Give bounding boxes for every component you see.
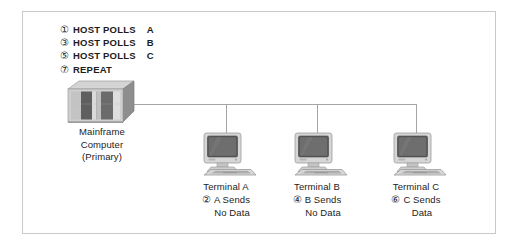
poll-sequence-target: B xyxy=(136,36,154,49)
mainframe-label: Mainframe Computer (Primary) xyxy=(56,126,148,164)
poll-sequence-action: REPEAT xyxy=(73,63,112,76)
mainframe-label-line1: Mainframe xyxy=(56,126,148,139)
poll-sequence-action: HOST POLLS xyxy=(73,36,136,49)
circled-number-7-icon: ⑦ xyxy=(60,63,73,76)
desktop-terminal-icon xyxy=(178,131,274,177)
terminal-c-caption: Terminal C ⑥ C Sends Data xyxy=(368,177,464,219)
poll-sequence-target: C xyxy=(136,49,154,62)
terminal-a-note: ② A Sends xyxy=(178,193,274,206)
terminal-b-node: Terminal B ④ B Sends No Data xyxy=(269,131,365,219)
polling-diagram-figure: ① HOST POLLS A ③ HOST POLLS B ⑤ HOST POL… xyxy=(0,0,520,246)
terminal-b-caption: Terminal B ④ B Sends No Data xyxy=(269,177,365,219)
terminal-c-note-line1: C Sends xyxy=(403,193,440,206)
desktop-terminal-icon xyxy=(269,131,365,177)
terminal-b-name: Terminal B xyxy=(269,180,365,193)
terminal-b-note: ④ B Sends xyxy=(269,193,365,206)
circled-number-3-icon: ③ xyxy=(60,36,73,49)
circled-number-1-icon: ① xyxy=(60,23,73,36)
terminal-c-node: Terminal C ⑥ C Sends Data xyxy=(368,131,464,219)
desktop-terminal-icon xyxy=(368,131,464,177)
circled-number-4-icon: ④ xyxy=(293,193,305,206)
mainframe-label-line3: (Primary) xyxy=(56,151,148,164)
circled-number-2-icon: ② xyxy=(202,193,214,206)
terminal-a-note-line2: No Data xyxy=(178,206,274,219)
terminal-c-note: ⑥ C Sends xyxy=(368,193,464,206)
mainframe-computer-icon xyxy=(66,80,136,125)
mainframe-label-line2: Computer xyxy=(56,139,148,152)
terminal-a-name: Terminal A xyxy=(178,180,274,193)
poll-sequence-item: ⑦ REPEAT xyxy=(60,63,230,76)
poll-sequence-item: ③ HOST POLLS B xyxy=(60,36,230,49)
poll-sequence-list: ① HOST POLLS A ③ HOST POLLS B ⑤ HOST POL… xyxy=(60,23,230,76)
poll-sequence-action: HOST POLLS xyxy=(73,49,136,62)
network-bus-line xyxy=(133,104,417,105)
poll-sequence-item: ① HOST POLLS A xyxy=(60,23,230,36)
poll-sequence-item: ⑤ HOST POLLS C xyxy=(60,49,230,62)
terminal-a-caption: Terminal A ② A Sends No Data xyxy=(178,177,274,219)
terminal-b-note-line2: No Data xyxy=(269,206,365,219)
terminal-c-note-line2: Data xyxy=(368,206,464,219)
poll-sequence-target: A xyxy=(136,23,154,36)
terminal-c-name: Terminal C xyxy=(368,180,464,193)
terminal-a-note-line1: A Sends xyxy=(214,193,250,206)
terminal-b-note-line1: B Sends xyxy=(305,193,342,206)
circled-number-5-icon: ⑤ xyxy=(60,49,73,62)
circled-number-6-icon: ⑥ xyxy=(391,193,403,206)
terminal-a-node: Terminal A ② A Sends No Data xyxy=(178,131,274,219)
poll-sequence-action: HOST POLLS xyxy=(73,23,136,36)
